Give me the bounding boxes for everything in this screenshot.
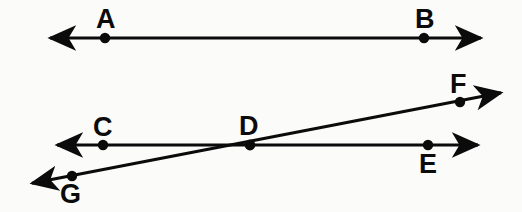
point-d xyxy=(245,140,256,151)
point-b xyxy=(419,33,429,43)
point-label-a: A xyxy=(96,6,116,33)
diagram-canvas: A B C D E F G xyxy=(0,0,522,212)
point-label-b: B xyxy=(415,6,435,33)
point-a xyxy=(100,33,110,43)
point-label-g: G xyxy=(60,181,81,208)
point-label-c: C xyxy=(93,114,113,141)
point-label-d: D xyxy=(239,113,259,140)
point-label-e: E xyxy=(419,151,437,178)
point-label-f: F xyxy=(450,71,467,98)
